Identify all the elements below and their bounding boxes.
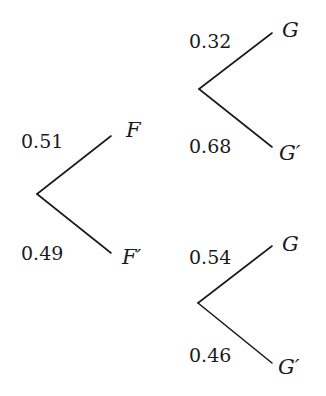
node-F: F bbox=[126, 120, 141, 141]
prob-G-given-F-prime: 0.54 bbox=[189, 248, 231, 267]
prob-F-prime: 0.49 bbox=[21, 244, 63, 263]
prob-G-prime-given-F-prime: 0.46 bbox=[189, 346, 231, 365]
node-F-prime: F′ bbox=[122, 247, 141, 268]
prob-G-given-F: 0.32 bbox=[189, 32, 231, 51]
prob-F: 0.51 bbox=[21, 132, 63, 151]
node-G-given-F-prime: G bbox=[282, 234, 299, 255]
node-G-given-F: G bbox=[282, 20, 299, 41]
probability-tree-diagram: 0.51 F 0.49 F′ 0.32 G 0.68 G′ 0.54 G 0.4… bbox=[0, 0, 326, 396]
node-G-prime-given-F: G′ bbox=[279, 143, 301, 164]
node-G-prime-given-F-prime: G′ bbox=[278, 357, 300, 378]
tree-branches bbox=[0, 0, 326, 396]
prob-G-prime-given-F: 0.68 bbox=[189, 137, 231, 156]
